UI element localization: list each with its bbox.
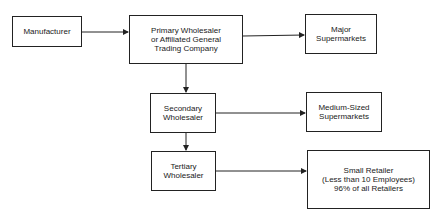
node-secondary-wholesaler: Secondary Wholesaler bbox=[150, 93, 216, 133]
node-label: Primary Wholesaler or Affiliated General… bbox=[151, 26, 221, 53]
node-label: Manufacturer bbox=[23, 27, 70, 36]
node-manufacturer: Manufacturer bbox=[12, 16, 82, 47]
node-major-supermarkets: Major Supermarkets bbox=[305, 14, 377, 54]
node-label: Tertiary Wholesaler bbox=[163, 162, 203, 180]
node-tertiary-wholesaler: Tertiary Wholesaler bbox=[151, 151, 216, 191]
node-label: Secondary Wholesaler bbox=[163, 104, 203, 122]
node-medium-supermarkets: Medium-Sized Supermarkets bbox=[306, 92, 382, 132]
node-primary-wholesaler: Primary Wholesaler or Affiliated General… bbox=[129, 15, 243, 64]
node-label: Major Supermarkets bbox=[316, 25, 366, 43]
edge-primary-major bbox=[243, 35, 304, 36]
node-label: Medium-Sized Supermarkets bbox=[318, 103, 369, 121]
node-small-retailer: Small Retailer (Less than 10 Employees) … bbox=[307, 150, 430, 209]
node-label: Small Retailer (Less than 10 Employees) … bbox=[322, 166, 415, 193]
